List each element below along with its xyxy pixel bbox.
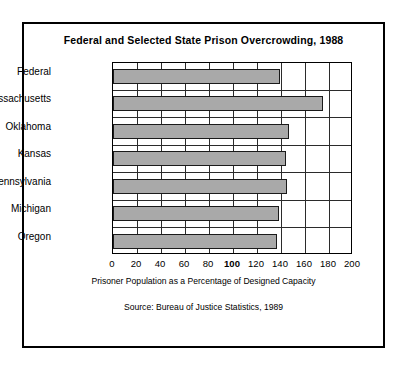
gridline — [329, 63, 330, 253]
category-label-massachusetts: Massachusetts — [0, 93, 51, 104]
row-separator — [113, 145, 351, 146]
bar-pennsylvania — [113, 179, 287, 194]
row-separator — [113, 90, 351, 91]
plot-area — [112, 62, 352, 254]
bar-oklahoma — [113, 124, 289, 139]
row-separator — [113, 227, 351, 228]
chart-title: Federal and Selected State Prison Overcr… — [24, 34, 383, 46]
bar-federal — [113, 69, 280, 84]
category-label-oklahoma: Oklahoma — [0, 121, 51, 132]
bar-michigan — [113, 206, 279, 221]
xtick-200: 200 — [337, 258, 367, 269]
category-label-pennsylvania: Pennsylvania — [0, 176, 51, 187]
row-separator — [113, 117, 351, 118]
gridline — [305, 63, 306, 253]
category-label-federal: Federal — [0, 66, 51, 77]
category-label-kansas: Kansas — [0, 148, 51, 159]
category-label-oregon: Oregon — [0, 231, 51, 242]
x-axis-label: Prisoner Population as a Percentage of D… — [24, 276, 383, 286]
chart-frame: Federal and Selected State Prison Overcr… — [22, 22, 385, 348]
bar-massachusetts — [113, 96, 323, 111]
bar-oregon — [113, 234, 277, 249]
row-separator — [113, 172, 351, 173]
category-label-michigan: Michigan — [0, 203, 51, 214]
row-separator — [113, 200, 351, 201]
source-note: Source: Bureau of Justice Statistics, 19… — [24, 302, 383, 312]
bar-kansas — [113, 151, 286, 166]
